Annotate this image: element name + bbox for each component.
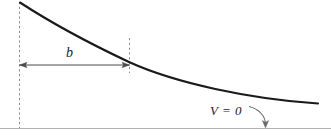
potential-curve [20, 3, 318, 104]
baseline-pointer-arrow [249, 107, 269, 129]
zero-potential-label: V = 0 [210, 104, 242, 117]
figure-canvas [0, 0, 331, 138]
width-dimension-label: b [66, 46, 73, 60]
figure-container: b V = 0 [0, 0, 331, 138]
width-dimension-arrow [20, 62, 130, 68]
